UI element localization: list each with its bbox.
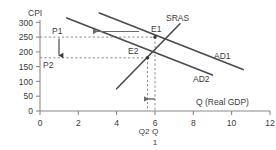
- y-axis-title: CPI: [28, 9, 42, 18]
- y-tick-label-100: 100: [6, 78, 33, 87]
- q1-label-letter: Q: [148, 128, 162, 136]
- x-tick-label-0: 0: [30, 119, 50, 128]
- x-tick-label-8: 8: [183, 119, 203, 128]
- p1-label: P1: [52, 27, 62, 36]
- x-tick-marks: [40, 111, 270, 115]
- e1-point[interactable]: [153, 35, 157, 39]
- q1-label-subscript: 1: [148, 139, 162, 147]
- ad-as-chart: CPI 300 250 200 150 100 50 0 0 2 4 6 8 1…: [0, 0, 276, 150]
- e1-label: E1: [151, 25, 161, 34]
- x-tick-label-12: 12: [260, 119, 276, 128]
- sras-curve-label: SRAS: [166, 14, 189, 23]
- x-axis-title: Q (Real GDP): [196, 98, 249, 107]
- y-tick-label-300: 300: [6, 19, 33, 28]
- x-tick-label-2: 2: [68, 119, 88, 128]
- y-tick-label-50: 50: [6, 92, 33, 101]
- x-tick-label-4: 4: [107, 119, 127, 128]
- e2-label: E2: [128, 47, 138, 56]
- ad2-curve[interactable]: [67, 18, 213, 75]
- y-tick-label-0: 0: [6, 107, 33, 116]
- p2-label: P2: [43, 61, 53, 70]
- x-tick-label-10: 10: [222, 119, 242, 128]
- y-tick-label-150: 150: [6, 63, 33, 72]
- y-tick-marks: [36, 22, 40, 111]
- ad2-curve-label: AD2: [193, 75, 210, 84]
- y-tick-label-200: 200: [6, 48, 33, 57]
- ad1-curve-label: AD1: [214, 52, 231, 61]
- e2-point[interactable]: [146, 56, 150, 60]
- y-tick-label-250: 250: [6, 33, 33, 42]
